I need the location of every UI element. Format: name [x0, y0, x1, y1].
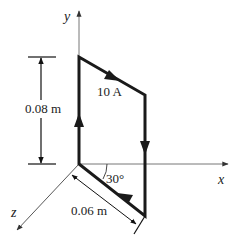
angle-marker: 30°: [103, 164, 124, 186]
current-loop-diagram: y x z 10 A 0.08 m 0.06 m 30°: [0, 0, 241, 245]
current-arrow-back-icon: [117, 193, 133, 204]
z-axis: [17, 164, 79, 230]
x-axis-label: x: [217, 172, 225, 187]
current-label: 10 A: [97, 84, 123, 99]
current-loop: 10 A: [74, 57, 150, 216]
width-label: 0.06 m: [71, 203, 107, 218]
y-axis-label: y: [62, 9, 71, 24]
height-label: 0.08 m: [25, 101, 61, 116]
z-axis-label: z: [10, 205, 17, 220]
angle-label: 30°: [106, 171, 124, 186]
loop-wire: [79, 57, 145, 216]
height-dimension: 0.08 m: [25, 57, 61, 164]
width-dim-tick-far: [134, 216, 145, 234]
current-arrow-down-icon: [140, 141, 150, 155]
current-arrow-up-icon: [74, 113, 84, 127]
